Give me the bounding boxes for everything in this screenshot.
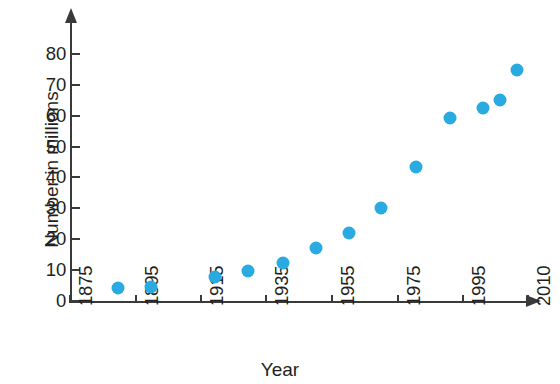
- data-point: [410, 161, 423, 174]
- data-point: [375, 202, 388, 215]
- x-tick-label: 2010: [535, 266, 554, 306]
- y-axis-arrow-icon: [65, 8, 77, 23]
- x-tick-label: 1995: [470, 266, 489, 306]
- data-point: [444, 112, 457, 125]
- x-tick-mark: [69, 295, 71, 303]
- data-point: [310, 242, 323, 255]
- data-point: [277, 257, 290, 270]
- x-tick-mark: [135, 295, 137, 303]
- y-tick-mark: [72, 53, 80, 55]
- data-point: [242, 265, 255, 278]
- data-point: [343, 227, 356, 240]
- x-tick-mark: [462, 295, 464, 303]
- y-tick-mark: [72, 238, 80, 240]
- x-axis-title: Year: [0, 360, 560, 379]
- y-tick-mark: [72, 207, 80, 209]
- y-tick-mark: [72, 176, 80, 178]
- x-tick-mark: [397, 295, 399, 303]
- data-point: [511, 64, 524, 77]
- data-point: [477, 102, 490, 115]
- y-tick-mark: [72, 115, 80, 117]
- x-tick-mark: [200, 295, 202, 303]
- y-axis-line: [70, 22, 72, 302]
- x-tick-label: 1955: [339, 266, 358, 306]
- y-tick-mark: [72, 84, 80, 86]
- x-tick-label: 1935: [273, 266, 292, 306]
- y-tick-mark: [72, 146, 80, 148]
- x-tick-mark: [527, 295, 529, 303]
- x-axis-line: [70, 301, 528, 303]
- x-tick-mark: [265, 295, 267, 303]
- scatter-plot-figure: 01020304050607080 1875189519151935195519…: [0, 0, 560, 384]
- y-tick-label: 0: [22, 292, 66, 311]
- x-tick-label: 1875: [77, 266, 96, 306]
- y-axis-title: Number in millions: [42, 60, 61, 280]
- data-point: [209, 271, 222, 284]
- x-tick-label: 1975: [405, 266, 424, 306]
- data-point: [494, 94, 507, 107]
- x-tick-mark: [331, 295, 333, 303]
- data-point: [145, 281, 158, 294]
- data-point: [112, 282, 125, 295]
